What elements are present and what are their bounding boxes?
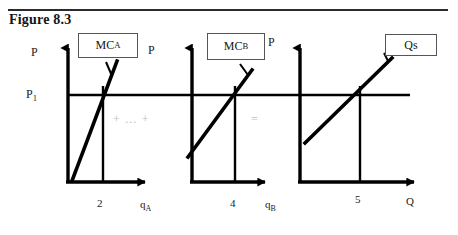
panel-a-callout-connector xyxy=(106,62,112,76)
price-label-text: P xyxy=(26,87,33,101)
panel-b-mc-curve xyxy=(188,70,252,157)
panel-b-quantity-tick: 4 xyxy=(230,198,236,209)
panel-market-x-axis-label: Q xyxy=(406,196,414,207)
operator-equals: = xyxy=(251,112,259,127)
panel-a-y-axis-label: P xyxy=(31,46,38,58)
curve-label-box-mc-b: MCB xyxy=(207,33,265,60)
panel-market-axes xyxy=(298,48,414,182)
curve-label-box-mc-a: MCA xyxy=(78,33,138,58)
panel-market-quantity-tick: 5 xyxy=(355,194,361,205)
panel-b-y-axis-label: P xyxy=(148,44,155,56)
figure-page: Figure 8.3 xyxy=(0,0,458,235)
curve-label-mc-b-subscript: B xyxy=(242,42,248,51)
panel-market-qs-curve xyxy=(305,58,392,143)
curve-label-mc-a-subscript: A xyxy=(114,41,120,50)
panel-a-quantity-tick: 2 xyxy=(97,198,103,209)
curve-label-mc-b-text: MC xyxy=(224,39,243,54)
panel-market-y-axis-label: P xyxy=(268,36,275,48)
panel-a-mc-curve xyxy=(72,61,117,181)
panel-a-x-axis-label-subscript: A xyxy=(146,204,152,213)
panel-b-callout-connector xyxy=(240,64,248,75)
operator-plus-ellipsis: + … + xyxy=(113,112,150,127)
curve-label-box-qs: Qs xyxy=(385,34,437,56)
panel-b-x-axis-label-subscript: B xyxy=(271,204,276,213)
price-label-subscript: 1 xyxy=(33,93,37,103)
panel-b-x-axis-label: qB xyxy=(265,199,276,213)
curve-label-mc-a-text: MC xyxy=(96,38,115,53)
curve-label-qs-text: Qs xyxy=(404,38,417,53)
price-axis-label-p1: P1 xyxy=(26,88,37,103)
panel-a-x-axis-label: qA xyxy=(140,199,151,213)
